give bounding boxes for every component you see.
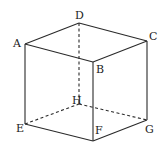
vertex-label-f: F <box>95 124 103 137</box>
edge-hg <box>79 104 147 120</box>
vertex-label-d: D <box>75 9 84 22</box>
edge-bc <box>93 41 147 62</box>
edge-eh <box>25 104 79 124</box>
solid-edges <box>25 23 147 141</box>
vertex-label-h: H <box>72 94 82 107</box>
hidden-edges <box>25 23 147 124</box>
vertex-labels: A B C D E F G H <box>12 9 157 137</box>
edge-dc <box>79 23 147 41</box>
vertex-label-b: B <box>96 63 104 76</box>
cube-diagram: A B C D E F G H <box>0 0 165 156</box>
vertex-label-g: G <box>145 123 154 136</box>
edge-ef <box>25 124 93 141</box>
vertex-label-c: C <box>149 30 157 43</box>
edge-ad <box>25 23 79 44</box>
vertex-label-e: E <box>16 122 24 135</box>
edge-ab <box>25 44 93 62</box>
vertex-label-a: A <box>12 37 22 50</box>
